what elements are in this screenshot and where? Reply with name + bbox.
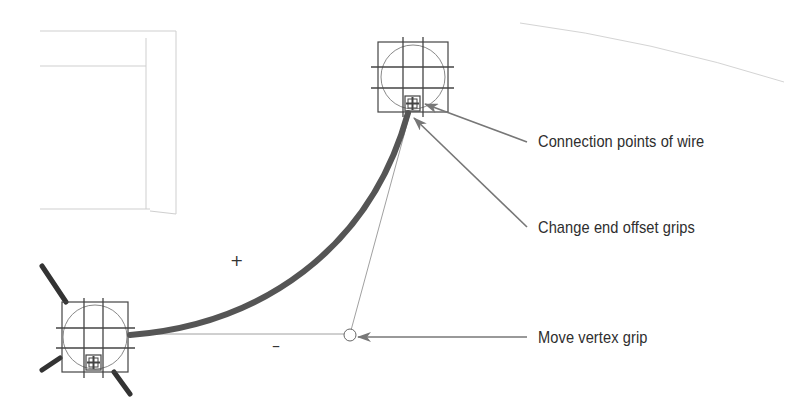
construction-lines xyxy=(130,113,410,334)
minus-sign: – xyxy=(272,338,280,354)
symbol-start xyxy=(56,298,135,378)
ghost-arc xyxy=(520,23,784,82)
drawing-canvas xyxy=(0,0,804,414)
vertex-grip[interactable] xyxy=(344,329,356,341)
callout-arrows xyxy=(358,104,527,337)
wire-curve[interactable] xyxy=(130,113,408,335)
terminal-stubs xyxy=(42,266,130,394)
symbol-end xyxy=(371,37,454,117)
ghost-component-outline xyxy=(40,31,176,214)
callout-vertex-grip: Move vertex grip xyxy=(538,328,647,348)
callout-end-offset-grips: Change end offset grips xyxy=(538,218,695,238)
plus-sign: + xyxy=(230,253,243,269)
callout-connection-points: Connection points of wire xyxy=(538,132,704,152)
